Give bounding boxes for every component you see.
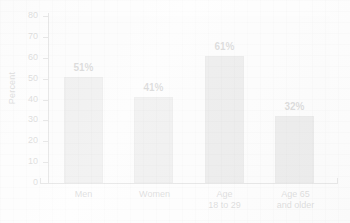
bar-4 [275, 116, 314, 183]
y-axis-tick-label: 70 [8, 32, 38, 41]
x-axis-label-line1: Men [75, 189, 93, 199]
y-axis-tick-label: 50 [8, 74, 38, 83]
y-axis-tick [43, 100, 49, 101]
y-axis-tick-label: 30 [8, 115, 38, 124]
y-axis-tick [43, 79, 49, 80]
x-axis-label-line1: Age [216, 189, 232, 199]
bar-3 [205, 56, 244, 183]
x-axis-label-1: Men [48, 189, 119, 200]
y-axis-tick [43, 120, 49, 121]
x-axis-label-2: Women [119, 189, 190, 200]
x-axis-right-cap [337, 178, 338, 184]
y-axis-tick-label: 20 [8, 136, 38, 145]
bar-value-label: 41% [124, 83, 183, 93]
y-axis-title: Percent [7, 53, 17, 123]
x-axis-line [40, 183, 338, 184]
x-axis-label-4: Age 65and older [260, 189, 331, 211]
x-axis-label-line1: Age 65 [281, 189, 310, 199]
y-axis-tick [43, 183, 49, 184]
y-axis-tick [43, 162, 49, 163]
y-axis-tick-label: 80 [8, 11, 38, 20]
x-axis-left-cap [40, 178, 41, 184]
y-axis-tick-label: 0 [8, 178, 38, 187]
x-axis-label-line2: 18 to 29 [189, 200, 260, 211]
y-axis-tick [43, 58, 49, 59]
x-axis-label-3: Age18 to 29 [189, 189, 260, 211]
bar-2 [134, 97, 173, 183]
bar-value-label: 32% [265, 102, 324, 112]
y-axis-line [48, 13, 49, 184]
bar-1 [64, 77, 103, 183]
y-axis-tick-label: 40 [8, 95, 38, 104]
y-axis-tick [43, 16, 49, 17]
bar-chart-figure: Percent 80706050403020100 51%41%61%32% M… [0, 0, 350, 223]
y-axis-tick-label: 60 [8, 53, 38, 62]
x-axis-label-line1: Women [139, 189, 170, 199]
y-axis-tick [43, 37, 49, 38]
x-axis-label-line2: and older [260, 200, 331, 211]
y-axis-tick-label: 10 [8, 157, 38, 166]
bar-value-label: 61% [195, 42, 254, 52]
y-axis-tick [43, 141, 49, 142]
bar-value-label: 51% [54, 63, 113, 73]
